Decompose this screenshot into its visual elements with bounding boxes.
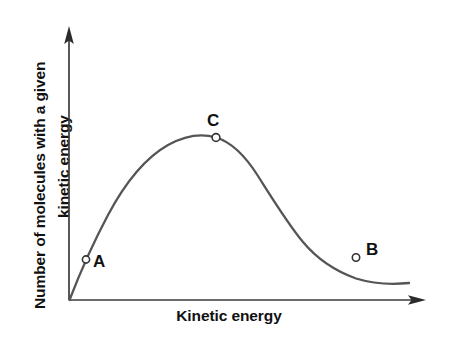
distribution-curve xyxy=(70,135,410,300)
data-point-label-b: B xyxy=(366,241,378,258)
x-axis-title-text: Kinetic energy xyxy=(176,307,281,325)
kinetic-energy-distribution-figure: Number of molecules with a given kinetic… xyxy=(0,0,450,337)
data-point-marker-a xyxy=(82,256,89,263)
x-axis-title: Kinetic energy xyxy=(0,307,450,325)
data-point-label-a: A xyxy=(93,253,105,270)
data-point-marker-c xyxy=(212,134,220,142)
data-point-marker-b xyxy=(352,254,359,261)
data-point-label-c: C xyxy=(207,112,219,129)
plot-area xyxy=(0,0,450,337)
